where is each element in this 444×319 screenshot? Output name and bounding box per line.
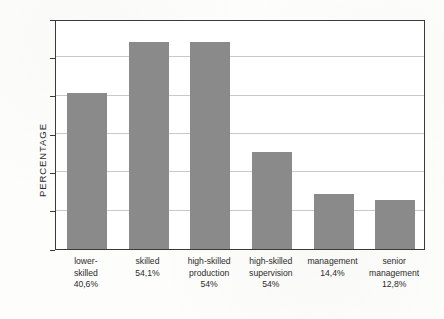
bar-4 bbox=[252, 152, 292, 249]
category-label-6: seniormanagement12,8% bbox=[357, 256, 431, 291]
bar-3 bbox=[190, 42, 230, 249]
category-label-line: 54% bbox=[234, 279, 308, 291]
bar-chart-figure: PERCENTAGE 0102030405060 lower-skilled40… bbox=[0, 0, 444, 319]
category-label-line: 40,6% bbox=[49, 279, 123, 291]
x-axis-category-labels: lower-skilled40,6%skilled54,1%high-skill… bbox=[55, 256, 425, 316]
bar-6 bbox=[375, 200, 415, 249]
bar-2 bbox=[129, 42, 169, 249]
bars-group bbox=[56, 21, 424, 249]
category-label-line: management bbox=[357, 268, 431, 280]
bar-5 bbox=[314, 194, 354, 249]
category-label-line: senior bbox=[357, 256, 431, 268]
plot-area bbox=[55, 20, 425, 250]
category-label-line: 12,8% bbox=[357, 279, 431, 291]
bar-1 bbox=[67, 93, 107, 249]
